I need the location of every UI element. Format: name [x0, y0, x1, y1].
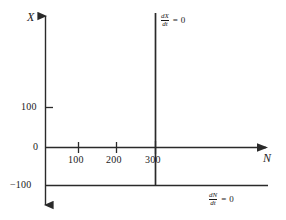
plot-canvas	[0, 0, 286, 220]
equation-rhs: 0	[181, 16, 186, 25]
x-tick-label-100: 100	[68, 155, 84, 165]
equation-rhs: 0	[229, 195, 234, 204]
x-tick-label-200: 200	[106, 155, 122, 165]
y-tick-label-100: 100	[21, 102, 37, 112]
nullcline-label-dn-dt: dN dt = 0	[208, 190, 234, 208]
equals-sign: =	[173, 16, 178, 25]
x-axis-label: N	[263, 152, 271, 164]
fraction-dx-dt: dX dt	[160, 13, 170, 29]
fraction-dn-dt: dN dt	[208, 192, 218, 208]
fraction-numerator: dN	[208, 192, 218, 199]
nullcline-label-dx-dt: dX dt = 0	[160, 11, 185, 29]
equals-sign: =	[221, 195, 226, 204]
phase-plane-figure: X N 100 0 −100 100 200 300 dX dt = 0 dN …	[0, 0, 286, 220]
fraction-numerator: dX	[160, 13, 170, 20]
y-tick-label-0: 0	[33, 142, 38, 152]
y-tick-label-minus-100: −100	[10, 180, 31, 190]
y-axis-label: X	[27, 11, 34, 23]
fraction-denominator: dt	[161, 20, 168, 28]
x-tick-label-300: 300	[145, 155, 161, 165]
fraction-denominator: dt	[209, 199, 216, 207]
